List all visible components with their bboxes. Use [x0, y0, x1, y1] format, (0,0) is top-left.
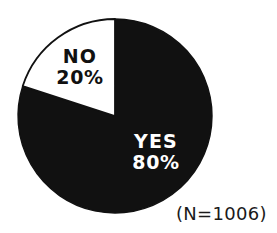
pie-chart-figure: NO 20% YES 80% (N=1006) [0, 0, 277, 233]
pie-label-no: NO 20% [44, 46, 116, 87]
pie-label-no-name: NO [44, 46, 116, 67]
pie-chart-graphic [0, 0, 277, 233]
pie-label-yes: YES 80% [120, 131, 192, 172]
pie-label-yes-name: YES [120, 131, 192, 152]
pie-label-yes-value: 80% [120, 152, 192, 173]
pie-label-no-value: 20% [44, 67, 116, 88]
sample-size-caption: (N=1006) [176, 203, 267, 224]
